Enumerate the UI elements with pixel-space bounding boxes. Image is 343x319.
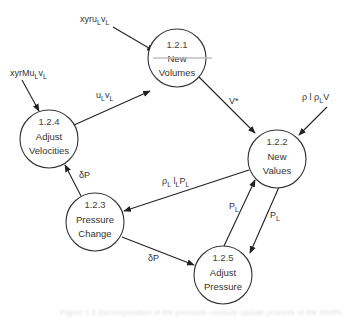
- flow-label-xyru-L-v-L: xyruLvL: [80, 14, 109, 26]
- node-1.2.3: 1.2.3 Pressure Change: [66, 193, 124, 251]
- node-1.2.2: 1.2.2 New Values: [248, 130, 306, 188]
- flow-label-p-L-down: PL: [270, 210, 280, 222]
- flow-label-u-L-v-L: uLvL: [96, 90, 113, 102]
- flow-label-xyrMu-L-v-L: xyrMuLvL: [10, 68, 47, 80]
- flow-label-delta-p-upper: δP: [79, 170, 90, 180]
- node-label-line2: Volumes: [159, 67, 196, 78]
- flow-label-rho-L-l-L-P-L: ρL lLPL: [162, 176, 189, 188]
- flow-label-p-L-up: PL: [229, 201, 239, 213]
- node-label-line1: Pressure: [76, 214, 114, 225]
- node-id: 1.2.2: [266, 136, 287, 147]
- node-1.2.1: 1.2.1 New Volumes: [148, 29, 212, 87]
- node-id: 1.2.3: [84, 199, 105, 210]
- data-flow-diagram: 1.2.1 New Volumes 1.2.2 New Values 1.2.3…: [0, 0, 343, 319]
- node-1.2.5: 1.2.5 Adjust Pressure: [194, 246, 252, 304]
- flow-1.2.1-to-1.2.2: [199, 77, 255, 133]
- flow-external-to-1.2.1: [113, 27, 154, 51]
- node-label-line1: New: [267, 151, 286, 162]
- flow-label-delta-p-lower: δP: [148, 253, 159, 263]
- node-id: 1.2.5: [212, 252, 233, 263]
- flow-label-rho-l-rho-L-V: ρ l ρLV: [302, 92, 329, 104]
- figure-caption: Figure 1.2 Decomposition of the pressure…: [0, 308, 343, 319]
- node-label-line2: Velocities: [29, 145, 69, 156]
- flow-external-to-1.2.2: [299, 107, 327, 135]
- flow-external-to-1.2.4: [22, 80, 39, 111]
- node-id: 1.2.4: [38, 116, 59, 127]
- node-label-line2: Change: [78, 228, 111, 239]
- node-label-line1: Adjust: [210, 267, 237, 278]
- flow-label-v-star: V*: [229, 96, 239, 106]
- node-id: 1.2.1: [166, 39, 187, 50]
- node-label-line2: Pressure: [204, 281, 242, 292]
- node-label-line2: Values: [263, 165, 292, 176]
- node-1.2.4: 1.2.4 Adjust Velocities: [20, 110, 78, 168]
- flow-1.2.5-to-1.2.2: [224, 180, 255, 246]
- flow-1.2.2-to-1.2.5: [250, 187, 279, 253]
- node-label-line1: Adjust: [36, 131, 63, 142]
